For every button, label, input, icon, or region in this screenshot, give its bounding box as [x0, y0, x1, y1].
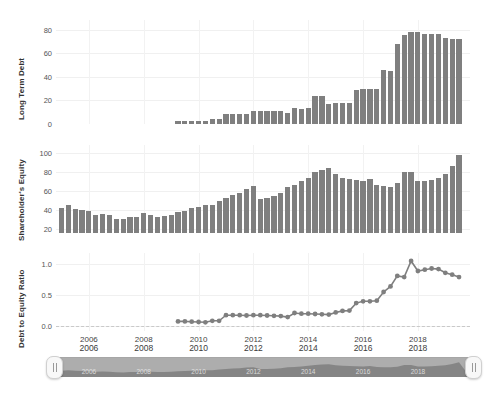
- bar[interactable]: [299, 109, 304, 124]
- bar[interactable]: [436, 178, 441, 234]
- bar[interactable]: [59, 208, 64, 233]
- data-point[interactable]: [292, 311, 297, 316]
- data-point[interactable]: [416, 269, 421, 274]
- bar[interactable]: [169, 215, 174, 233]
- data-point[interactable]: [443, 270, 448, 275]
- bar[interactable]: [381, 186, 386, 233]
- bar[interactable]: [360, 181, 365, 233]
- bar[interactable]: [73, 209, 78, 233]
- data-point[interactable]: [374, 298, 379, 303]
- bar[interactable]: [436, 34, 441, 124]
- bar[interactable]: [456, 39, 461, 124]
- bar[interactable]: [306, 108, 311, 124]
- bar[interactable]: [107, 215, 112, 233]
- bar[interactable]: [251, 111, 256, 124]
- bar[interactable]: [326, 168, 331, 233]
- data-point[interactable]: [450, 272, 455, 277]
- bar[interactable]: [415, 32, 420, 124]
- bar[interactable]: [429, 180, 434, 233]
- bar[interactable]: [374, 185, 379, 233]
- bar[interactable]: [347, 103, 352, 124]
- bar[interactable]: [271, 111, 276, 124]
- data-point[interactable]: [347, 308, 352, 313]
- data-point[interactable]: [429, 266, 434, 271]
- bar[interactable]: [326, 104, 331, 124]
- data-point[interactable]: [299, 311, 304, 316]
- bar[interactable]: [360, 89, 365, 125]
- bar[interactable]: [292, 185, 297, 233]
- bar[interactable]: [340, 103, 345, 124]
- bar[interactable]: [408, 32, 413, 124]
- bar[interactable]: [395, 183, 400, 233]
- bar[interactable]: [210, 205, 215, 233]
- bar[interactable]: [230, 195, 235, 233]
- data-point[interactable]: [210, 318, 215, 323]
- bar[interactable]: [415, 181, 420, 233]
- bar[interactable]: [271, 196, 276, 233]
- data-point[interactable]: [265, 313, 270, 318]
- bar[interactable]: [127, 217, 132, 233]
- bar[interactable]: [333, 174, 338, 233]
- bar[interactable]: [381, 70, 386, 124]
- bar[interactable]: [395, 44, 400, 124]
- data-point[interactable]: [189, 319, 194, 324]
- data-point[interactable]: [244, 313, 249, 318]
- data-point[interactable]: [361, 299, 366, 304]
- data-point[interactable]: [176, 319, 181, 324]
- bar[interactable]: [203, 205, 208, 233]
- bar[interactable]: [388, 187, 393, 233]
- data-point[interactable]: [224, 313, 229, 318]
- bar[interactable]: [121, 219, 126, 233]
- range-slider-left-handle[interactable]: [46, 356, 63, 379]
- bar[interactable]: [223, 114, 228, 124]
- data-point[interactable]: [258, 313, 263, 318]
- data-point[interactable]: [320, 312, 325, 317]
- bar[interactable]: [422, 34, 427, 124]
- data-point[interactable]: [388, 284, 393, 289]
- bar[interactable]: [388, 71, 393, 124]
- bar[interactable]: [312, 172, 317, 233]
- bar[interactable]: [217, 201, 222, 233]
- bar[interactable]: [450, 166, 455, 233]
- bar[interactable]: [114, 219, 119, 233]
- bar[interactable]: [354, 180, 359, 233]
- bar[interactable]: [258, 199, 263, 233]
- data-point[interactable]: [203, 320, 208, 325]
- data-point[interactable]: [183, 319, 188, 324]
- bar[interactable]: [422, 181, 427, 233]
- data-point[interactable]: [326, 312, 331, 317]
- bar[interactable]: [244, 114, 249, 124]
- bar[interactable]: [66, 205, 71, 233]
- bar[interactable]: [278, 111, 283, 124]
- bar[interactable]: [319, 170, 324, 233]
- data-point[interactable]: [422, 267, 427, 272]
- bar[interactable]: [223, 198, 228, 233]
- range-slider[interactable]: 2006200820102012201420162018: [56, 357, 470, 377]
- bar[interactable]: [292, 108, 297, 124]
- data-point[interactable]: [306, 311, 311, 316]
- bar[interactable]: [367, 89, 372, 125]
- bar[interactable]: [443, 38, 448, 124]
- data-point[interactable]: [272, 313, 277, 318]
- data-point[interactable]: [237, 313, 242, 318]
- data-point[interactable]: [196, 320, 201, 325]
- data-point[interactable]: [409, 259, 414, 264]
- bar[interactable]: [230, 114, 235, 124]
- bar[interactable]: [196, 207, 201, 233]
- bar[interactable]: [285, 113, 290, 124]
- data-point[interactable]: [457, 275, 462, 280]
- bar[interactable]: [319, 96, 324, 124]
- bar[interactable]: [162, 216, 167, 233]
- bar[interactable]: [443, 174, 448, 233]
- bar[interactable]: [258, 111, 263, 124]
- bar[interactable]: [93, 215, 98, 233]
- bar[interactable]: [285, 187, 290, 233]
- bar[interactable]: [402, 172, 407, 233]
- bar[interactable]: [354, 90, 359, 124]
- bar[interactable]: [340, 178, 345, 234]
- bar[interactable]: [237, 114, 242, 124]
- bar[interactable]: [189, 208, 194, 233]
- bar[interactable]: [367, 179, 372, 233]
- data-point[interactable]: [230, 313, 235, 318]
- data-point[interactable]: [402, 275, 407, 280]
